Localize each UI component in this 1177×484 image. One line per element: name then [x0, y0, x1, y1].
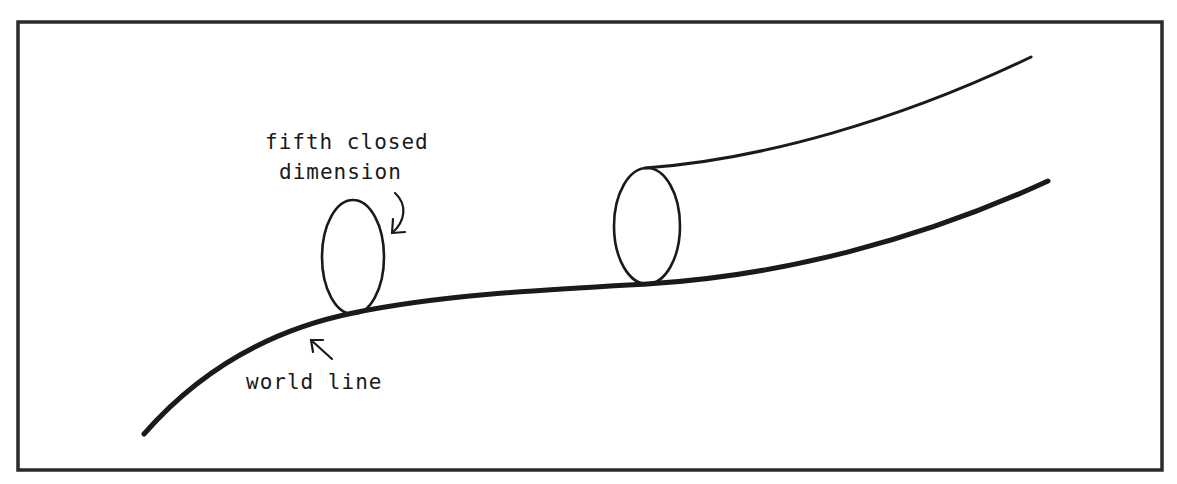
tube-upper-edge	[645, 57, 1031, 168]
closed-dimension-circle	[322, 200, 384, 314]
tube-cross-section-circle	[614, 168, 680, 284]
world-line-arrow-icon	[311, 340, 332, 359]
label-fifth-closed: fifth closed	[265, 130, 429, 154]
label-dimension: dimension	[279, 160, 402, 184]
label-world-line: world line	[246, 370, 382, 394]
world-line-curve	[144, 181, 1048, 434]
dimension-arrow-icon	[392, 193, 405, 233]
diagram: fifth closed dimension world line	[0, 0, 1177, 484]
figure-frame	[18, 22, 1162, 470]
